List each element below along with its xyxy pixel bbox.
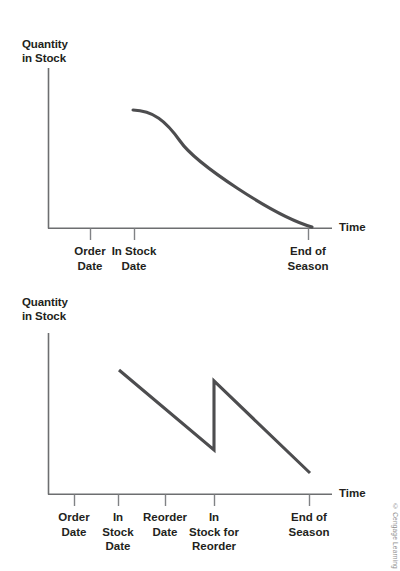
- x-axis-title: Time: [339, 221, 366, 233]
- y-axis-title: Quantity in Stock: [22, 37, 68, 65]
- y-axis-title: Quantity in Stock: [22, 295, 68, 323]
- chart-single-order: Quantity in Stock Time Order Date In Sto…: [0, 0, 400, 285]
- chart-reorder: Quantity in Stock Time Order Date In Sto…: [0, 285, 400, 571]
- x-tick-label-in-stock-date: In Stock Date: [112, 244, 157, 273]
- x-axis-title: Time: [339, 487, 366, 499]
- x-tick-label-in-stock-date: In Stock Date: [102, 510, 133, 554]
- copyright-credit: © Cengage Learning: [392, 503, 399, 569]
- x-tick-label-end-of-season: End of Season: [288, 244, 329, 273]
- data-sawtooth: [119, 370, 310, 473]
- x-tick-label-reorder-date: Reorder Date: [143, 510, 187, 539]
- x-tick-label-order-date: Order Date: [58, 510, 89, 539]
- x-tick-label-in-stock-for-reorder: In Stock for Reorder: [189, 510, 239, 554]
- data-curve: [133, 110, 312, 227]
- x-tick-label-end-of-season: End of Season: [289, 510, 330, 539]
- x-tick-label-order-date: Order Date: [74, 244, 105, 273]
